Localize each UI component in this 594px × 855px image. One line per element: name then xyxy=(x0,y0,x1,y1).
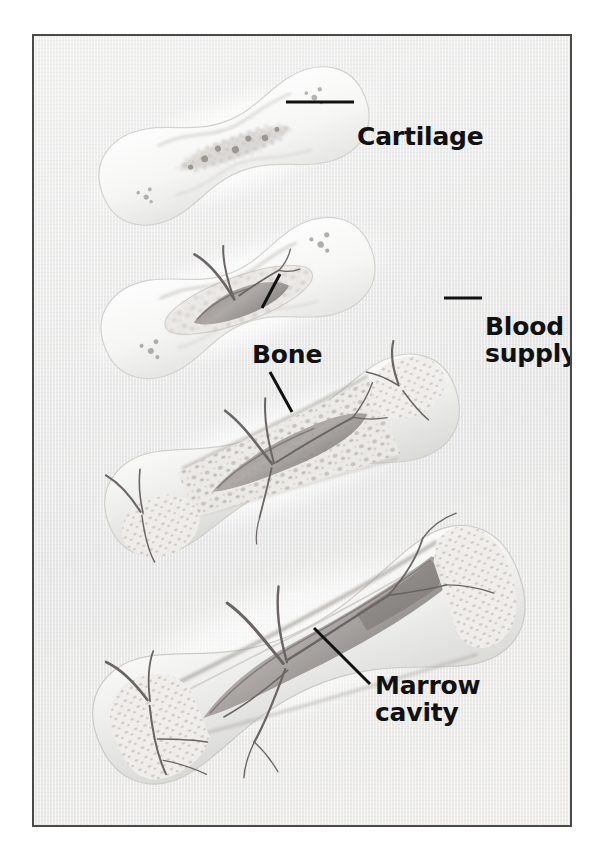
label-blood-supply: Blood supply xyxy=(485,314,572,367)
label-marrow-cavity-line2: cavity xyxy=(375,700,480,727)
label-marrow-cavity: Marrow cavity xyxy=(375,673,480,726)
label-bone: Bone xyxy=(252,342,322,369)
figure-frame: Cartilage Bone Blood supply Marrow cavit… xyxy=(32,34,572,827)
bone-development-illustration xyxy=(34,36,570,825)
label-blood-supply-line1: Blood xyxy=(485,314,572,341)
label-cartilage: Cartilage xyxy=(357,124,484,151)
label-marrow-cavity-line1: Marrow xyxy=(375,673,480,700)
stage-1-cartilage-model xyxy=(65,41,403,252)
label-blood-supply-line2: supply xyxy=(485,341,572,368)
